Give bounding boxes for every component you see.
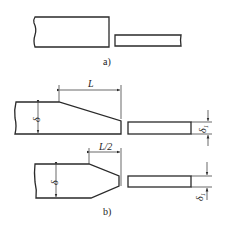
dim-delta1-2: δ1 [194,193,207,201]
figure-a: a) [34,17,181,68]
figure-b-double-taper: L/2 δ δ1 b) [35,141,213,218]
dim-L-half: L/2 [98,141,112,152]
dim-delta-1: δ [31,117,42,122]
thin-plate-a [115,35,181,46]
weld-joint-diagram: a) L δ δ1 L/2 δ δ1 b) [0,0,227,229]
thick-plate-a [34,17,109,47]
figure-b-single-taper: L δ δ1 [15,78,212,146]
caption-a: a) [103,56,111,68]
thick-plate-b2 [35,164,120,198]
dim-delta1-1: δ1 [197,125,210,133]
thin-plate-b1 [128,122,191,134]
caption-b: b) [103,206,111,218]
dim-delta-2: δ [49,180,60,185]
thin-plate-b2 [128,176,191,187]
dim-L: L [87,78,94,89]
